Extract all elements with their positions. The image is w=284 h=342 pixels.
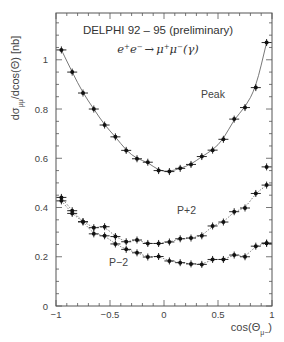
data-point-peak	[262, 39, 272, 46]
data-point-pplus2	[197, 232, 207, 239]
data-point-peak	[110, 133, 120, 140]
x-tick-label: 0	[161, 309, 166, 320]
data-point-pplus2	[154, 240, 164, 247]
data-point-pplus2	[262, 163, 272, 170]
data-point-pminus2	[56, 197, 66, 204]
data-point-peak	[89, 106, 99, 113]
data-point-pplus2	[89, 224, 99, 231]
data-point-peak	[218, 136, 228, 143]
y-tick-label: 1	[43, 54, 48, 65]
y-tick-label: 0.8	[35, 104, 48, 115]
data-point-pminus2	[197, 261, 207, 268]
x-tick-label: 0.5	[211, 309, 224, 320]
plot-frame	[56, 13, 272, 306]
data-point-peak	[208, 147, 218, 154]
data-point-pminus2	[175, 259, 185, 266]
data-point-pminus2	[240, 253, 250, 260]
fit-curves	[61, 43, 266, 265]
curve-label-peak: Peak	[201, 88, 226, 100]
data-point-peak	[229, 116, 239, 123]
curve-label-p-plus-2: P+2	[177, 204, 196, 216]
y-tick-label: 0	[43, 301, 48, 312]
data-point-peak	[240, 104, 250, 111]
cross-section-chart: −1−0.500.5100.20.40.60.81 DELPHI 92 – 95…	[0, 0, 284, 342]
data-point-pminus2	[110, 240, 120, 247]
fit-curve-peak	[61, 43, 266, 172]
data-point-peak	[175, 165, 185, 172]
data-point-pplus2	[132, 237, 142, 244]
data-point-pplus2	[229, 208, 239, 215]
data-point-peak	[164, 168, 174, 175]
data-point-pplus2	[186, 235, 196, 242]
data-point-pminus2	[78, 218, 88, 225]
y-tick-label: 0.2	[35, 251, 48, 262]
chart-title: DELPHI 92 – 95 (preliminary)	[83, 24, 233, 36]
x-tick-label: −0.5	[101, 309, 120, 320]
data-point-peak	[67, 69, 77, 76]
data-point-peak	[251, 84, 261, 91]
data-point-pplus2	[110, 233, 120, 240]
data-point-pminus2	[121, 246, 131, 253]
data-point-pplus2	[208, 222, 218, 229]
curve-label-p-minus-2: P−2	[109, 256, 128, 268]
x-tick-label: −1	[51, 309, 62, 320]
x-tick-label: 1	[269, 309, 274, 320]
y-tick-label: 0.4	[35, 202, 48, 213]
data-point-pminus2	[218, 256, 228, 263]
y-axis-title: dσμμ/dcos(Θ) [nb]	[9, 36, 25, 121]
axis-tick-labels: −1−0.500.5100.20.40.60.81	[35, 54, 275, 320]
data-point-pminus2	[89, 230, 99, 237]
x-axis-title: cos(Θμ−)	[231, 321, 272, 337]
data-point-pplus2	[218, 219, 228, 226]
data-point-pminus2	[143, 254, 153, 261]
data-point-pminus2	[251, 243, 261, 250]
data-point-pplus2	[240, 205, 250, 212]
axis-ticks	[56, 13, 272, 306]
data-points	[56, 39, 271, 268]
data-point-pminus2	[154, 253, 164, 260]
data-point-pplus2	[121, 238, 131, 245]
data-point-pminus2	[208, 256, 218, 263]
plot-border	[56, 13, 272, 306]
data-point-pminus2	[164, 257, 174, 264]
data-point-pminus2	[186, 260, 196, 267]
data-point-peak	[100, 122, 110, 129]
data-point-pminus2	[229, 252, 239, 259]
data-point-pplus2	[175, 235, 185, 242]
data-point-pminus2	[132, 249, 142, 256]
data-point-peak	[78, 90, 88, 97]
process-formula: e+e−→μ+μ−(γ)	[117, 42, 199, 56]
data-point-pplus2	[251, 190, 261, 197]
data-point-pplus2	[143, 240, 153, 247]
data-point-pplus2	[164, 238, 174, 245]
data-point-pminus2	[262, 240, 272, 247]
y-tick-label: 0.6	[35, 153, 48, 164]
data-point-pplus2	[100, 223, 110, 230]
